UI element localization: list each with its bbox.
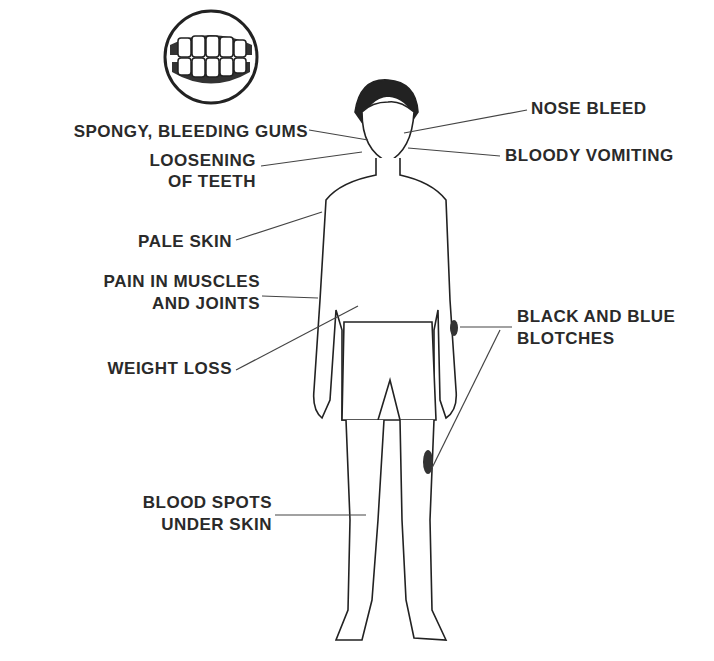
label-bloody-vomiting: BLOODY VOMITING — [505, 145, 674, 166]
label-blotches-line1: BLACK AND BLUE — [517, 306, 675, 327]
label-pain-line2: AND JOINTS — [20, 293, 260, 314]
label-loosening-line2: OF TEETH — [60, 171, 256, 192]
label-blood-spots-line1: BLOOD SPOTS — [60, 492, 272, 513]
human-figure — [314, 80, 458, 640]
label-blotches-line2: BLOTCHES — [517, 328, 615, 349]
label-weight-loss: WEIGHT LOSS — [40, 358, 232, 379]
label-loosening-line1: LOOSENING — [60, 150, 256, 171]
label-spongy-gums: SPONGY, BLEEDING GUMS — [18, 121, 308, 142]
label-pain-line1: PAIN IN MUSCLES — [20, 271, 260, 292]
label-nose-bleed: NOSE BLEED — [531, 98, 647, 119]
teeth-inset-icon — [165, 11, 257, 103]
label-blood-spots-line2: UNDER SKIN — [60, 514, 272, 535]
label-pale-skin: PALE SKIN — [60, 231, 232, 252]
